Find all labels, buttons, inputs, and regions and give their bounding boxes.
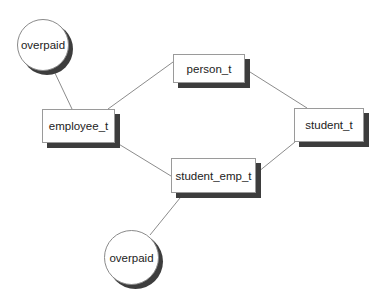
edge-overpaid-employee — [54, 71, 72, 109]
node-employee-t[interactable]: employee_t — [42, 109, 115, 143]
node-student-t[interactable]: student_t — [294, 108, 364, 142]
node-label: student_emp_t — [175, 170, 251, 182]
node-student-emp-t[interactable]: student_emp_t — [171, 158, 256, 193]
edge-student-studentemp — [258, 142, 295, 172]
node-label: overpaid — [109, 252, 153, 264]
edge-employee-studentemp — [117, 143, 171, 176]
diagram-canvas: overpaid person_t employee_t student_t s… — [0, 0, 390, 292]
node-label: overpaid — [21, 39, 65, 51]
node-label: employee_t — [49, 120, 108, 132]
node-overpaid-bottom[interactable]: overpaid — [104, 230, 159, 285]
node-person-t[interactable]: person_t — [173, 54, 245, 83]
node-label: student_t — [305, 119, 352, 131]
node-overpaid-top[interactable]: overpaid — [17, 19, 69, 71]
edge-person-student — [250, 72, 307, 108]
edge-studentemp-overpaid — [150, 198, 180, 235]
node-label: person_t — [187, 63, 232, 75]
edge-employee-person — [108, 62, 173, 109]
